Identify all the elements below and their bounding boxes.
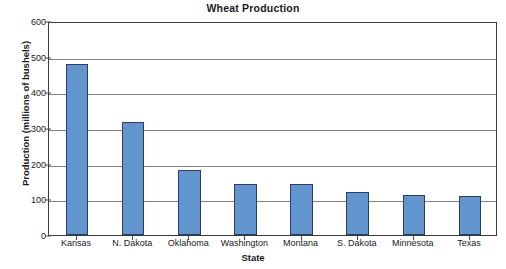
- y-axis-tick-label: 0: [0, 231, 46, 241]
- bar-s-dakota: [346, 192, 368, 236]
- y-axis-tick-label: 600: [0, 17, 46, 27]
- bar-washington: [234, 184, 256, 235]
- y-axis-tick-mark: [45, 93, 51, 94]
- x-axis-tick-label: Texas: [457, 238, 481, 248]
- x-axis-tick-label: Washington: [221, 238, 268, 248]
- x-axis-tick-label: Montana: [283, 238, 318, 248]
- y-axis-tick-mark: [45, 236, 51, 237]
- x-axis-tick-label: Kansas: [61, 238, 91, 248]
- y-axis-tick-mark: [45, 129, 51, 130]
- bar-chart: Wheat Production Production (millions of…: [0, 0, 506, 269]
- bar-texas: [459, 196, 481, 235]
- gridline: [49, 201, 496, 202]
- x-axis-tick-label: Minnesota: [392, 238, 434, 248]
- y-axis-tick-label: 300: [0, 124, 46, 134]
- y-axis-tick-mark: [45, 200, 51, 201]
- x-axis-tick-label: S. Dakota: [337, 238, 377, 248]
- chart-title: Wheat Production: [0, 2, 506, 14]
- gridline: [49, 130, 496, 131]
- bar-kansas: [66, 64, 88, 235]
- y-axis-tick-label: 200: [0, 160, 46, 170]
- y-axis-tick-mark: [45, 22, 51, 23]
- bar-oklahoma: [178, 170, 200, 235]
- x-axis-tick-label: N. Dakota: [112, 238, 152, 248]
- bar-minnesota: [403, 195, 425, 235]
- plot-area: [48, 22, 497, 236]
- y-axis-tick-label: 500: [0, 53, 46, 63]
- bar-montana: [290, 184, 312, 235]
- y-axis-tick-mark: [45, 57, 51, 58]
- gridline: [49, 59, 496, 60]
- plot-inner: [49, 23, 496, 235]
- y-axis-tick-mark: [45, 164, 51, 165]
- x-axis-title: State: [0, 252, 506, 263]
- gridline: [49, 166, 496, 167]
- gridline: [49, 94, 496, 95]
- y-axis-title: Production (millions of bushels): [20, 0, 31, 229]
- bar-n-dakota: [122, 122, 144, 235]
- y-axis-tick-label: 400: [0, 88, 46, 98]
- x-axis-tick-label: Oklahoma: [168, 238, 209, 248]
- y-axis-tick-label: 100: [0, 195, 46, 205]
